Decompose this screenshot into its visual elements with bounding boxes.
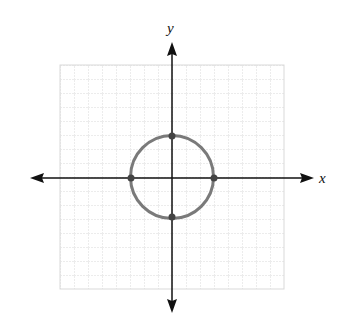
point-top [169,133,176,140]
x-axis-right-arrow-icon [300,173,314,183]
point-bottom [169,214,176,221]
coordinate-plane: x y [0,0,340,317]
y-axis-up-arrow-icon [167,42,177,56]
point-right [211,175,218,182]
y-axis-label: y [165,20,174,36]
x-axis-label: x [318,170,326,186]
y-axis-down-arrow-icon [167,299,177,313]
x-axis-left-arrow-icon [30,173,44,183]
point-left [128,175,135,182]
